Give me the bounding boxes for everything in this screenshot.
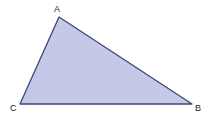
vertex-label-a: A — [54, 4, 60, 14]
triangle-svg: A B C — [0, 0, 212, 124]
triangle-abc — [20, 17, 192, 104]
vertex-label-b: B — [195, 103, 201, 113]
triangle-diagram: A B C — [0, 0, 212, 124]
vertex-label-c: C — [10, 103, 17, 113]
